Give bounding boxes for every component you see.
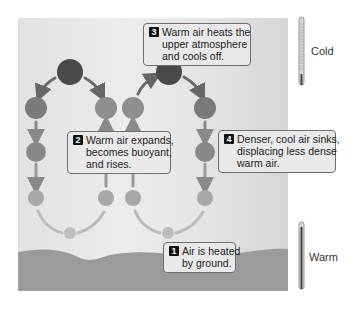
thermometer-warm-icon xyxy=(299,222,304,289)
air-parcel-mild xyxy=(195,142,215,162)
air-parcel-mild xyxy=(122,97,144,119)
air-parcel-mild xyxy=(95,97,117,119)
air-parcel-warm xyxy=(28,190,44,206)
callout-step-4: 4Denser, cool air sinks, displacing less… xyxy=(218,130,336,173)
step-number-badge: 4 xyxy=(224,134,234,144)
callout-step-1: 1Air is heated by ground. xyxy=(163,242,236,273)
air-parcel-cool xyxy=(25,97,47,119)
thermometer-cold-icon xyxy=(299,17,304,85)
step-number-badge: 3 xyxy=(149,27,159,37)
air-parcel-cold xyxy=(57,59,83,85)
air-parcel-warm xyxy=(125,190,141,206)
air-parcel-warm xyxy=(197,190,213,206)
callout-step-2: 2Warm air expands, becomes buoyant, and … xyxy=(67,131,171,174)
cold-label: Cold xyxy=(311,45,334,57)
air-parcel-cool xyxy=(194,97,216,119)
air-parcel-hot xyxy=(162,227,174,239)
ground xyxy=(18,249,288,291)
warm-label: Warm xyxy=(309,251,338,263)
callout-step-3: 3Warm air heats the upper atmosphere and… xyxy=(143,23,251,66)
step-number-badge: 1 xyxy=(169,246,179,256)
step-number-badge: 2 xyxy=(73,135,83,145)
air-parcel-hot xyxy=(64,227,76,239)
air-parcel-mild xyxy=(26,142,46,162)
air-parcel-warm xyxy=(98,190,114,206)
